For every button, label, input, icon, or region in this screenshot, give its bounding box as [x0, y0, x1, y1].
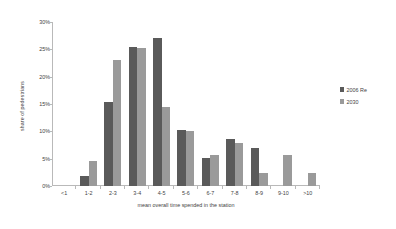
x-axis-tick [271, 186, 295, 189]
bar [235, 143, 244, 186]
y-axis-tick-labels: 0%5%10%15%20%25%30% [28, 0, 50, 229]
legend-label: 2006 Re [347, 87, 367, 93]
x-axis-ticks [52, 186, 320, 189]
legend-label: 2030 [347, 99, 359, 105]
x-axis-tick-label: 6-7 [198, 190, 222, 196]
x-axis-tick [174, 186, 198, 189]
chart-legend: 2006 Re2030 [340, 86, 394, 110]
y-axis-title: share of pedestrians [19, 46, 25, 166]
bar [153, 38, 162, 186]
y-axis-tick-label: 10% [39, 128, 50, 134]
bar [226, 139, 235, 186]
x-axis-tick-label: >10 [296, 190, 320, 196]
bar [251, 148, 260, 186]
x-axis-tick-label: 4-5 [149, 190, 173, 196]
x-axis-tick-label: 2-3 [101, 190, 125, 196]
bar-group [198, 22, 222, 186]
x-axis-tick [198, 186, 222, 189]
x-axis-tick-label: <1 [52, 190, 76, 196]
x-axis-tick-label: 8-9 [247, 190, 271, 196]
bar-group [52, 22, 76, 186]
x-axis-tick [223, 186, 247, 189]
x-axis-tick-label: 7-8 [223, 190, 247, 196]
bar [162, 107, 171, 186]
x-axis-tick [76, 186, 100, 189]
x-axis-tick [125, 186, 149, 189]
y-axis-tick-label: 20% [39, 74, 50, 80]
bar [308, 173, 317, 186]
x-axis-tick [296, 186, 320, 189]
bar-group [223, 22, 247, 186]
bar-group [101, 22, 125, 186]
y-axis-tick-label: 0% [42, 183, 50, 189]
bar [283, 155, 292, 186]
x-axis-tick [247, 186, 271, 189]
legend-swatch-icon [340, 87, 344, 93]
bar [177, 130, 186, 186]
y-axis-tick-label: 25% [39, 46, 50, 52]
bar-group [296, 22, 320, 186]
bar [113, 60, 122, 186]
bar-chart: share of pedestrians 0%5%10%15%20%25%30%… [0, 0, 396, 229]
bar-group [149, 22, 173, 186]
x-axis-tick-label: 9-10 [271, 190, 295, 196]
bar [129, 47, 138, 186]
x-axis-tick-label: 1-2 [76, 190, 100, 196]
bar-group [247, 22, 271, 186]
x-axis-tick [149, 186, 173, 189]
x-axis-title: mean overall time spended in the station [52, 202, 320, 208]
x-axis-tick [52, 186, 76, 189]
bar-group [174, 22, 198, 186]
bar [80, 176, 89, 186]
bar [186, 131, 195, 186]
x-axis-tick [101, 186, 125, 189]
bar [210, 155, 219, 186]
bar-group [125, 22, 149, 186]
y-axis-tick-label: 15% [39, 101, 50, 107]
y-axis-tick-label: 30% [39, 19, 50, 25]
x-axis-tick-label: 5-6 [174, 190, 198, 196]
legend-item[interactable]: 2006 Re [340, 86, 394, 93]
x-axis-tick-label: 3-4 [125, 190, 149, 196]
bar [202, 158, 211, 186]
bar-groups [52, 22, 320, 186]
bar [89, 161, 98, 186]
bar-group [271, 22, 295, 186]
x-axis-tick-labels: <11-22-33-44-55-66-77-88-99-10>10 [52, 190, 320, 196]
legend-swatch-icon [340, 99, 344, 105]
bar-group [76, 22, 100, 186]
bar [104, 102, 113, 186]
legend-item[interactable]: 2030 [340, 98, 394, 105]
y-axis-tick-label: 5% [42, 156, 50, 162]
bar [259, 173, 268, 186]
bar [137, 48, 146, 186]
